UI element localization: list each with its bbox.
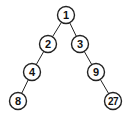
tree-diagram: 12349827 <box>0 0 129 118</box>
node-label: 4 <box>29 66 36 78</box>
node-label: 27 <box>108 96 119 107</box>
tree-node-4: 4 <box>24 64 41 81</box>
nodes-group: 12349827 <box>10 7 122 110</box>
tree-node-27: 27 <box>105 93 122 110</box>
node-label: 8 <box>15 95 21 107</box>
tree-node-8: 8 <box>10 93 27 110</box>
node-label: 2 <box>45 38 51 50</box>
tree-node-3: 3 <box>72 36 89 53</box>
edges-group <box>18 15 113 101</box>
tree-node-9: 9 <box>88 64 105 81</box>
node-label: 9 <box>93 66 99 78</box>
node-label: 3 <box>77 38 83 50</box>
tree-node-2: 2 <box>40 36 57 53</box>
tree-node-1: 1 <box>58 7 75 24</box>
node-label: 1 <box>63 9 69 21</box>
